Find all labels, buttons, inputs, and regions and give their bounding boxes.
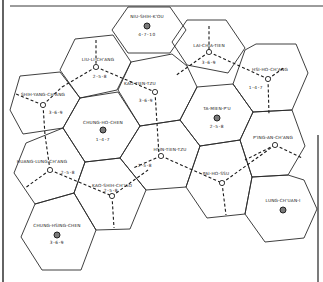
market-days: 3-6-9 <box>202 60 216 65</box>
minor-town-icon <box>158 153 163 158</box>
town-name: TA-MIEN-P'U <box>202 106 231 111</box>
major-town-icon <box>214 115 220 121</box>
minor-town-icon <box>109 193 114 198</box>
minor-town-icon <box>265 76 270 81</box>
town-name: KAO-TIEN-TZU <box>124 81 156 86</box>
hex-kao-tien-tzu <box>118 54 197 126</box>
town-name: HSIN-TIEN-TZU <box>153 147 186 152</box>
market-days: 2-5-8 <box>61 170 75 175</box>
hexagon-network-diagram: NIU-SHIH-K'OU 4-7-10 LIU-LI-CH'ANG 2-5-8… <box>0 0 323 282</box>
market-days: 3-6-9 <box>139 98 153 103</box>
market-days: 1-4-7 <box>96 137 110 142</box>
market-days: 1-4-7 <box>249 85 263 90</box>
town-name: LIU-LI-CH'ANG <box>82 57 114 62</box>
market-days: 3-6-9 <box>49 110 63 115</box>
minor-town-icon <box>219 180 224 185</box>
market-days: 2-5-8 <box>93 74 107 79</box>
minor-town-icon <box>40 102 45 107</box>
town-name: HUANG-LUNG-CH'ANG <box>17 159 67 164</box>
minor-town-icon <box>47 167 52 172</box>
hex-pai-ho-ssu <box>186 140 252 218</box>
town-name: P'ING-AN-CH'ANG <box>253 135 293 140</box>
town-markers <box>40 23 286 238</box>
town-name: NIU-SHIH-K'OU <box>130 14 164 19</box>
town-name: SHIH-YANG-CH'ANG <box>21 92 65 97</box>
minor-town-icon <box>152 89 157 94</box>
major-town-icon <box>280 207 286 213</box>
town-name: HSI-HO-CH'ANG <box>252 67 288 72</box>
town-name: CHUNG-HO-CHEN <box>83 120 123 125</box>
minor-town-icon <box>206 49 211 54</box>
town-name: CHUNG-HSING-CHEN <box>33 223 80 228</box>
minor-town-icon <box>272 142 277 147</box>
town-name: LUNG-CH'UAN-I <box>266 198 301 203</box>
market-days: 2-5-8 <box>210 124 224 129</box>
major-town-icon <box>100 127 106 133</box>
diagram-canvas: NIU-SHIH-K'OU 4-7-10 LIU-LI-CH'ANG 2-5-8… <box>0 0 323 282</box>
major-town-icon <box>144 23 150 29</box>
market-days: 3-6-9 <box>50 240 64 245</box>
market-days: 2-5-8 <box>138 163 152 168</box>
market-days: 2-5-8 <box>104 188 118 193</box>
minor-town-icon <box>93 64 98 69</box>
town-name: PAI-HO-SSU <box>203 171 229 176</box>
hex-chung-hsing-chen <box>21 193 96 270</box>
town-name: LAI-CHIA-TIEN <box>193 43 225 48</box>
major-town-icon <box>54 232 60 238</box>
market-days: 4-7-10 <box>138 32 156 37</box>
